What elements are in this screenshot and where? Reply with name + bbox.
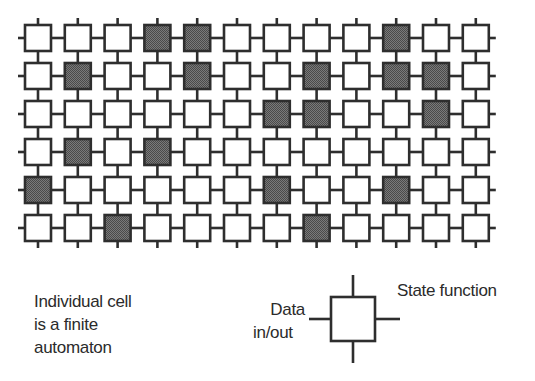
inactive-cell	[25, 139, 51, 165]
inactive-cell	[184, 177, 210, 203]
inactive-cell	[423, 139, 449, 165]
inactive-cell	[65, 215, 91, 241]
active-cell	[184, 25, 210, 51]
inactive-cell	[463, 139, 489, 165]
inactive-cell	[25, 63, 51, 89]
state-function-label: State function	[397, 279, 497, 302]
inactive-cell	[184, 101, 210, 127]
legend-cell-symbol	[309, 275, 400, 363]
active-cell	[423, 101, 449, 127]
data-label-line-2: in/out	[253, 321, 305, 344]
inactive-cell	[343, 101, 369, 127]
active-cell	[383, 25, 409, 51]
inactive-cell	[105, 139, 131, 165]
inactive-cell	[463, 177, 489, 203]
inactive-cell	[184, 215, 210, 241]
inactive-cell	[383, 101, 409, 127]
inactive-cell	[224, 215, 250, 241]
legend-cell-box	[331, 297, 375, 341]
active-cell	[304, 101, 330, 127]
inactive-cell	[224, 63, 250, 89]
inactive-cell	[144, 101, 170, 127]
active-cell	[105, 215, 131, 241]
active-cell	[144, 139, 170, 165]
inactive-cell	[304, 25, 330, 51]
inactive-cell	[423, 25, 449, 51]
inactive-cell	[105, 101, 131, 127]
active-cell	[304, 63, 330, 89]
inactive-cell	[304, 139, 330, 165]
inactive-cell	[105, 25, 131, 51]
inactive-cell	[423, 215, 449, 241]
caption-line-2: is a finite	[34, 313, 132, 336]
inactive-cell	[25, 215, 51, 241]
inactive-cell	[65, 101, 91, 127]
inactive-cell	[224, 139, 250, 165]
inactive-cell	[463, 63, 489, 89]
active-cell	[65, 63, 91, 89]
inactive-cell	[105, 177, 131, 203]
inactive-cell	[264, 63, 290, 89]
inactive-cell	[463, 101, 489, 127]
inactive-cell	[343, 63, 369, 89]
inactive-cell	[184, 139, 210, 165]
data-label-line-1: Data	[253, 298, 305, 321]
inactive-cell	[25, 25, 51, 51]
inactive-cell	[144, 63, 170, 89]
inactive-cell	[463, 215, 489, 241]
inactive-cell	[144, 177, 170, 203]
inactive-cell	[343, 177, 369, 203]
inactive-cell	[105, 63, 131, 89]
inactive-cell	[264, 139, 290, 165]
inactive-cell	[343, 139, 369, 165]
inactive-cell	[343, 25, 369, 51]
active-cell	[383, 177, 409, 203]
active-cell	[383, 63, 409, 89]
inactive-cell	[65, 177, 91, 203]
grid-connections	[18, 18, 496, 248]
caption: Individual cell is a finite automaton	[34, 290, 132, 359]
active-cell	[264, 177, 290, 203]
inactive-cell	[264, 215, 290, 241]
inactive-cell	[383, 215, 409, 241]
data-in-out-label: Data in/out	[253, 298, 305, 344]
active-cell	[264, 101, 290, 127]
inactive-cell	[423, 177, 449, 203]
active-cell	[423, 63, 449, 89]
inactive-cell	[383, 139, 409, 165]
caption-line-3: automaton	[34, 336, 132, 359]
inactive-cell	[304, 177, 330, 203]
inactive-cell	[463, 25, 489, 51]
inactive-cell	[343, 215, 369, 241]
inactive-cell	[25, 101, 51, 127]
inactive-cell	[65, 25, 91, 51]
inactive-cell	[224, 25, 250, 51]
automaton-grid	[25, 25, 489, 241]
active-cell	[65, 139, 91, 165]
inactive-cell	[264, 25, 290, 51]
inactive-cell	[224, 177, 250, 203]
active-cell	[25, 177, 51, 203]
active-cell	[304, 215, 330, 241]
caption-line-1: Individual cell	[34, 290, 132, 313]
inactive-cell	[144, 215, 170, 241]
inactive-cell	[224, 101, 250, 127]
active-cell	[144, 25, 170, 51]
active-cell	[184, 63, 210, 89]
